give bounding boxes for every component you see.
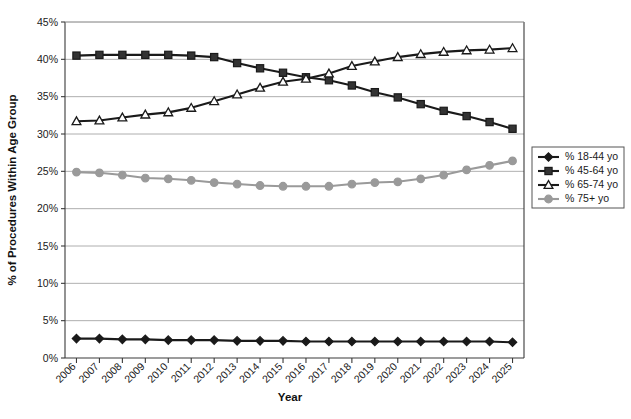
x-axis-tick-label: 2022 <box>420 360 445 385</box>
data-point <box>279 69 286 76</box>
x-axis-tick-label: 2018 <box>328 360 353 385</box>
data-point <box>164 175 172 183</box>
data-point <box>485 337 493 345</box>
x-axis-tick-label: 2007 <box>76 360 101 385</box>
data-point <box>371 179 379 187</box>
y-axis-tick-label: 20% <box>37 202 58 214</box>
data-point <box>211 53 218 60</box>
series-1 <box>73 51 516 132</box>
data-point <box>486 162 494 170</box>
x-axis-title: Year <box>278 391 303 403</box>
chart-container: 0%5%10%15%20%25%30%35%40%45%200620072008… <box>0 0 631 419</box>
y-axis-title: % of Procedures Within Age Group <box>6 94 18 285</box>
x-axis-tick-label: 2021 <box>397 360 422 385</box>
data-point <box>417 337 425 345</box>
x-axis-tick-label: 2023 <box>443 360 468 385</box>
data-point <box>440 171 448 179</box>
data-point <box>142 51 149 58</box>
legend-label: % 18-44 yo <box>565 150 618 162</box>
data-point <box>210 179 218 187</box>
data-point <box>463 166 471 174</box>
x-axis-tick-label: 2008 <box>99 360 124 385</box>
series-3 <box>73 157 517 190</box>
x-axis-tick-label: 2010 <box>145 360 170 385</box>
data-point <box>439 337 447 345</box>
data-point <box>302 182 310 190</box>
data-point <box>233 337 241 345</box>
data-point <box>486 118 493 125</box>
x-axis-tick-label: 2015 <box>259 360 284 385</box>
legend-marker <box>545 167 552 174</box>
data-point <box>187 336 195 344</box>
legend-label: % 65-74 yo <box>565 178 618 190</box>
data-point <box>348 82 355 89</box>
data-point <box>508 338 516 346</box>
x-axis-tick-label: 2024 <box>466 360 491 385</box>
data-point <box>119 171 127 179</box>
x-axis-tick-label: 2013 <box>214 360 239 385</box>
x-axis-tick-label: 2019 <box>351 360 376 385</box>
x-axis-labels: 2006200720082009201020112012201320142015… <box>53 358 514 385</box>
data-point <box>462 337 470 345</box>
data-point <box>96 51 103 58</box>
data-point <box>142 174 150 182</box>
series-0 <box>72 334 516 346</box>
y-axis-tick-label: 15% <box>37 240 58 252</box>
data-point <box>118 335 126 343</box>
y-axis-tick-label: 10% <box>37 277 58 289</box>
data-point <box>164 336 172 344</box>
data-point <box>73 52 80 59</box>
data-point <box>256 182 264 190</box>
line-chart: 0%5%10%15%20%25%30%35%40%45%200620072008… <box>0 0 631 419</box>
legend: % 18-44 yo% 45-64 yo% 65-74 yo% 75+ yo <box>532 147 624 208</box>
data-point <box>119 51 126 58</box>
data-point <box>394 94 401 101</box>
data-point <box>509 125 516 132</box>
data-point <box>348 337 356 345</box>
data-point <box>417 175 425 183</box>
data-point <box>96 169 104 177</box>
data-point <box>348 180 356 188</box>
data-point <box>440 107 447 114</box>
y-axis-tick-label: 40% <box>37 53 58 65</box>
data-point <box>234 59 241 66</box>
data-point <box>371 337 379 345</box>
legend-marker <box>545 195 553 203</box>
y-axis-tick-label: 30% <box>37 128 58 140</box>
y-axis-tick-label: 45% <box>37 16 58 28</box>
data-point <box>417 101 424 108</box>
x-axis-tick-label: 2012 <box>191 360 216 385</box>
data-point <box>394 178 402 186</box>
data-point <box>256 65 263 72</box>
x-axis-tick-label: 2009 <box>122 360 147 385</box>
data-point <box>210 336 218 344</box>
data-point <box>509 157 517 165</box>
data-point <box>302 337 310 345</box>
data-point <box>325 337 333 345</box>
data-point <box>394 337 402 345</box>
x-axis-tick-label: 2025 <box>489 360 514 385</box>
x-axis-tick-label: 2020 <box>374 360 399 385</box>
data-point <box>187 176 195 184</box>
data-point <box>95 334 103 342</box>
y-axis-tick-label: 5% <box>43 314 58 326</box>
y-axis-tick-label: 35% <box>37 90 58 102</box>
x-axis-tick-label: 2014 <box>236 360 261 385</box>
data-point <box>325 182 333 190</box>
x-axis-tick-label: 2011 <box>168 360 193 385</box>
data-point <box>188 52 195 59</box>
data-point <box>73 168 81 176</box>
data-point <box>463 112 470 119</box>
data-point <box>325 77 332 84</box>
legend-label: % 45-64 yo <box>565 164 618 176</box>
data-point <box>165 51 172 58</box>
data-point <box>141 335 149 343</box>
legend-label: % 75+ yo <box>565 192 609 204</box>
data-point <box>371 89 378 96</box>
data-point <box>279 337 287 345</box>
y-axis-tick-label: 0% <box>43 352 58 364</box>
data-point <box>233 180 241 188</box>
data-point <box>256 337 264 345</box>
x-axis-tick-label: 2016 <box>282 360 307 385</box>
data-point <box>72 334 80 342</box>
